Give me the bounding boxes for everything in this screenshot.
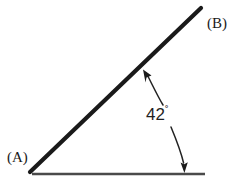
degree-symbol: ˚ xyxy=(165,104,169,116)
angle-diagram-canvas xyxy=(0,0,234,190)
point-label-a: (A) xyxy=(7,150,28,165)
angle-measure-label: 42˚ xyxy=(146,105,169,123)
angle-diagram-figure: (A) (B) 42˚ xyxy=(0,0,234,190)
angle-measure-value: 42 xyxy=(146,105,165,124)
figure-background xyxy=(0,0,234,190)
point-label-b: (B) xyxy=(207,16,227,31)
